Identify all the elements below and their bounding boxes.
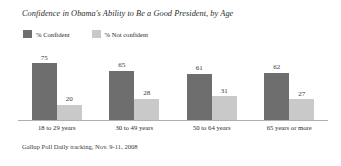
bar-not-confident xyxy=(57,105,82,120)
chart-container: Confidence in Obama's Ability to Be a Go… xyxy=(0,0,341,166)
legend-swatch-confident-icon xyxy=(23,30,32,38)
legend-label-not-confident: % Not confident xyxy=(105,31,149,38)
x-axis-baseline xyxy=(18,120,328,121)
bar-not-confident xyxy=(289,99,314,120)
x-axis-label: 50 to 64 years xyxy=(173,124,251,131)
bar-value-confident: 65 xyxy=(109,61,134,69)
bar-confident xyxy=(264,73,289,120)
x-axis-label: 65 years or more xyxy=(251,124,329,131)
bar-wrap-confident: 75 xyxy=(32,44,57,120)
bar-not-confident xyxy=(134,99,159,120)
legend-item-not-confident: % Not confident xyxy=(92,30,149,38)
bar-value-confident: 62 xyxy=(264,63,289,71)
chart-legend: % Confident % Not confident xyxy=(23,30,148,38)
bar-value-confident: 61 xyxy=(187,64,212,72)
bar-group: 65 28 xyxy=(96,44,174,120)
bar-wrap-confident: 61 xyxy=(187,44,212,120)
bar-group: 62 27 xyxy=(251,44,329,120)
chart-title: Confidence in Obama's Ability to Be a Go… xyxy=(22,9,233,18)
bar-not-confident xyxy=(212,96,237,120)
bar-wrap-not-confident: 28 xyxy=(134,44,159,120)
bar-value-not-confident: 31 xyxy=(212,87,237,95)
x-axis-label: 30 to 49 years xyxy=(96,124,174,131)
bar-value-not-confident: 20 xyxy=(57,95,82,103)
chart-source-note: Gallup Poll Daily tracking, Nov. 9-11, 2… xyxy=(22,143,138,150)
bar-wrap-not-confident: 20 xyxy=(57,44,82,120)
x-axis-labels: 18 to 29 years 30 to 49 years 50 to 64 y… xyxy=(18,124,328,131)
x-axis-label: 18 to 29 years xyxy=(18,124,96,131)
bar-group: 75 20 xyxy=(18,44,96,120)
bar-value-not-confident: 27 xyxy=(289,90,314,98)
bar-value-confident: 75 xyxy=(32,54,57,62)
bar-confident xyxy=(109,71,134,120)
bar-wrap-confident: 62 xyxy=(264,44,289,120)
bar-value-not-confident: 28 xyxy=(134,89,159,97)
legend-item-confident: % Confident xyxy=(23,30,70,38)
bar-groups: 75 20 65 28 xyxy=(18,44,328,120)
legend-label-confident: % Confident xyxy=(36,31,70,38)
bar-confident xyxy=(32,63,57,120)
bar-wrap-not-confident: 31 xyxy=(212,44,237,120)
bar-wrap-not-confident: 27 xyxy=(289,44,314,120)
bar-confident xyxy=(187,74,212,120)
bar-wrap-confident: 65 xyxy=(109,44,134,120)
legend-swatch-not-confident-icon xyxy=(92,30,101,38)
bar-group: 61 31 xyxy=(173,44,251,120)
plot-area: 75 20 65 28 xyxy=(0,44,341,122)
